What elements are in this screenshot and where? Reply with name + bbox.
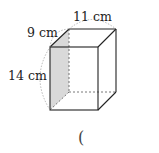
depth-label: 9 cm xyxy=(27,25,58,40)
answer-blank: ( xyxy=(78,128,84,147)
prism-diagram: 9 cm 11 cm 14 cm ( xyxy=(0,0,159,153)
prism-figure: 9 cm 11 cm 14 cm ( xyxy=(0,0,159,153)
shaded-left-face xyxy=(50,29,69,110)
width-label: 11 cm xyxy=(73,9,112,24)
height-label: 14 cm xyxy=(8,68,47,83)
